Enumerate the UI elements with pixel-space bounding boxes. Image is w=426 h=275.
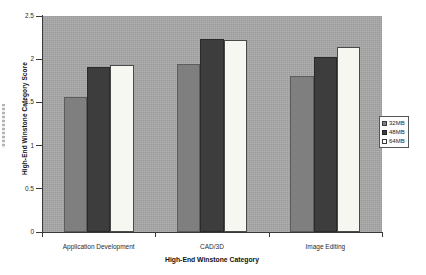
bar-32MB-cad-3d: [177, 64, 200, 232]
legend-item-32MB: 32MB: [382, 119, 405, 127]
bar-64MB-cad-3d: [224, 40, 247, 232]
bar-64MB-application-development: [110, 65, 133, 232]
chart-legend: 32MB48MB64MB: [379, 116, 409, 148]
x-axis-tick: [42, 232, 43, 237]
x-axis-tick: [269, 232, 270, 237]
legend-swatch-icon: [382, 130, 387, 135]
bar-32MB-image-editing: [290, 76, 313, 232]
x-axis-category-label: Image Editing: [269, 243, 382, 250]
y-axis-tick: [36, 145, 42, 146]
y-axis-tick: [36, 188, 42, 189]
x-axis-title: High-End Winstone Category: [42, 256, 382, 263]
legend-item-label: 64MB: [389, 137, 405, 145]
y-axis-tick-label: 2.5: [16, 12, 34, 19]
bar-48MB-cad-3d: [200, 39, 223, 232]
legend-swatch-icon: [382, 121, 387, 126]
y-axis-line: [42, 15, 43, 233]
y-axis-tick-label: 0: [16, 228, 34, 235]
y-axis-title: High-End Winstone Category Score: [21, 29, 28, 209]
bar-48MB-image-editing: [314, 57, 337, 232]
scan-edge-artifact: [2, 104, 5, 148]
y-axis-tick: [36, 16, 42, 17]
x-axis-category-label: Application Development: [42, 243, 155, 250]
x-axis-line: [41, 232, 383, 233]
x-axis-tick: [155, 232, 156, 237]
legend-swatch-icon: [382, 139, 387, 144]
y-axis-tick: [36, 102, 42, 103]
bar-chart-figure: 00.511.522.5 Application DevelopmentCAD/…: [0, 0, 426, 275]
bar-48MB-application-development: [87, 67, 110, 232]
x-axis-tick: [382, 232, 383, 237]
bar-32MB-application-development: [64, 97, 87, 232]
legend-item-label: 32MB: [389, 119, 405, 127]
legend-item-48MB: 48MB: [382, 128, 405, 136]
y-axis-tick: [36, 59, 42, 60]
bar-64MB-image-editing: [337, 47, 360, 232]
x-axis-category-label: CAD/3D: [155, 243, 268, 250]
legend-item-label: 48MB: [389, 128, 405, 136]
legend-item-64MB: 64MB: [382, 137, 405, 145]
